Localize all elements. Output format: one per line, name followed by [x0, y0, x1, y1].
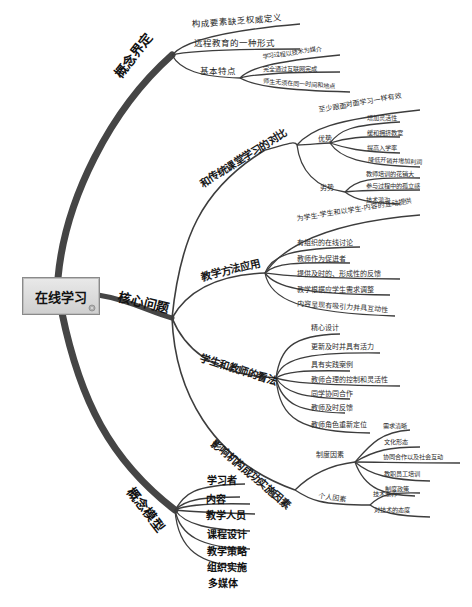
institutional-2[interactable]: 文化形态 — [384, 439, 408, 445]
model-multimedia[interactable]: 多媒体 — [208, 579, 238, 589]
model-implementation[interactable]: 组织实施 — [207, 563, 247, 573]
view-3[interactable]: 具有实践案例 — [311, 362, 353, 369]
view-1[interactable]: 精心设计 — [311, 325, 339, 332]
method-3[interactable]: 教师作为促进者 — [297, 256, 346, 263]
institutional-4[interactable]: 教职员工培训 — [384, 471, 420, 477]
root-node[interactable]: 在线学习 — [22, 277, 100, 315]
advantage-3[interactable]: 提高入学率 — [367, 145, 397, 151]
view-7[interactable]: 教师角色重新定位 — [311, 422, 367, 429]
root-label: 在线学习 — [35, 287, 87, 306]
view-6[interactable]: 教师及时反馈 — [311, 405, 353, 412]
disadvantage-2[interactable]: 参与过程中的孤立感 — [366, 183, 420, 189]
view-4[interactable]: 教师合理的控制和灵活性 — [311, 377, 388, 384]
trunk-definition — [58, 55, 172, 278]
model-strategy[interactable]: 教学策略 — [207, 547, 247, 557]
definition-item-3[interactable]: 基本特点 — [200, 67, 236, 76]
advantage-2[interactable]: 缓和拥挤教室 — [367, 130, 403, 136]
definition-item-2[interactable]: 远程教育的一种形式 — [194, 39, 275, 48]
model-course-design[interactable]: 课程设计 — [207, 530, 247, 540]
compare-advantages[interactable]: 优势 — [318, 136, 332, 143]
feature-2[interactable]: 完全通过互联网完成 — [263, 66, 317, 72]
model-learner[interactable]: 学习者 — [207, 476, 237, 486]
disadvantage-1[interactable]: 教师培训的花销大 — [366, 171, 414, 177]
method-2[interactable]: 有组织的在线讨论 — [297, 240, 353, 247]
view-2[interactable]: 更新及时并具有活力 — [311, 344, 374, 351]
method-5[interactable]: 教学根据应学生需求调整 — [297, 287, 374, 294]
personal-1[interactable]: 技术素养 — [373, 491, 397, 497]
model-content[interactable]: 内容 — [206, 495, 226, 505]
view-5[interactable]: 同学协同合作 — [311, 391, 353, 398]
trunk-model — [62, 313, 175, 510]
factor-institutional[interactable]: 制度因素 — [316, 452, 344, 459]
model-instructors[interactable]: 教学人员 — [206, 511, 246, 521]
method-4[interactable]: 提供及时的、形成性的反馈 — [297, 271, 381, 278]
personal-2[interactable]: 对技术的态度 — [374, 507, 410, 513]
gear-decoration-icon — [87, 304, 97, 312]
compare-disadvantages[interactable]: 劣势 — [320, 185, 334, 192]
institutional-3[interactable]: 协同合作以及社会互动 — [383, 454, 443, 460]
advantage-1[interactable]: 增加灵活性 — [367, 115, 397, 121]
institutional-1[interactable]: 需求清晰 — [383, 423, 407, 429]
